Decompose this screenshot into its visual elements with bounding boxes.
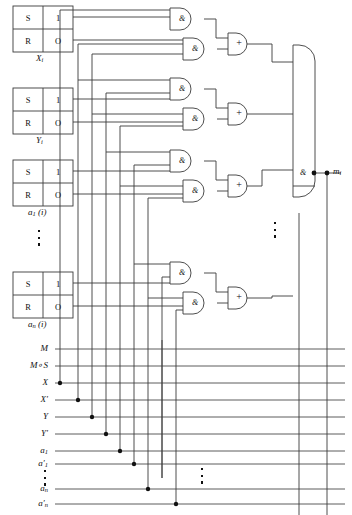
ellipsis-or-gates (272, 222, 278, 242)
ff1-cell-I: 1 (51, 13, 65, 23)
ff1-cell-S: S (21, 13, 35, 23)
and-gate-3-symbol: & (175, 84, 189, 93)
big-and-gate-symbol: & (296, 168, 310, 177)
and-gate-4-symbol: & (188, 114, 202, 123)
bus-label-0: M (2, 343, 48, 353)
bus-label-9: a′n (2, 498, 48, 508)
or-gate-3-symbol: + (232, 179, 246, 190)
ellipsis-flipflops (36, 230, 42, 250)
or-gate-2-symbol: + (232, 107, 246, 118)
bus-label-5: Y′ (2, 428, 48, 438)
ff3-caption: a1 (i) (28, 207, 47, 217)
ff3-cell-I: 1 (51, 167, 65, 177)
ff1-cell-R: R (21, 36, 35, 46)
and-gate-2-symbol: & (188, 44, 202, 53)
ff4-cell-R: R (21, 302, 35, 312)
circuit-schematic-canvas (0, 0, 352, 515)
and-gate-7-symbol: & (175, 268, 189, 277)
ff2-caption: Yi (36, 135, 43, 145)
ff4-caption: an (i) (28, 319, 47, 329)
ellipsis-bus (199, 468, 205, 488)
bus-label-7: a′1 (2, 458, 48, 468)
ff4-cell-I: 1 (51, 279, 65, 289)
ff2-cell-I: 1 (51, 95, 65, 105)
and-gate-5-symbol: & (175, 156, 189, 165)
junction-dots (58, 171, 330, 507)
and-gate-1-symbol: & (175, 14, 189, 23)
ff1-caption: Xi (36, 53, 43, 63)
ff3-cell-O: O (51, 190, 65, 200)
ff4-cell-O: O (51, 302, 65, 312)
ff4-cell-S: S (21, 279, 35, 289)
ff1-cell-O: O (51, 36, 65, 46)
circuit-diagram: S 1 R O S 1 R O S 1 R O S 1 R O Xi Yi a1… (0, 0, 352, 515)
and-gate-6-symbol: & (188, 186, 202, 195)
ff3-cell-R: R (21, 190, 35, 200)
ff2-cell-O: O (51, 118, 65, 128)
or-gate-4-symbol: + (232, 291, 246, 302)
bus-label-3: X′ (2, 394, 48, 404)
and-gate-8-symbol: & (188, 298, 202, 307)
or-gate-1-symbol: + (232, 37, 246, 48)
bus-label-1: M∘S (2, 360, 48, 370)
bus-label-4: Y (2, 411, 48, 421)
output-label-mi: mi (333, 166, 341, 176)
ff2-cell-R: R (21, 118, 35, 128)
ff2-cell-S: S (21, 95, 35, 105)
bus-label-6: a1 (2, 445, 48, 455)
ff3-cell-S: S (21, 167, 35, 177)
ellipsis-bus-labels (42, 470, 48, 490)
bus-label-2: X (2, 377, 48, 387)
